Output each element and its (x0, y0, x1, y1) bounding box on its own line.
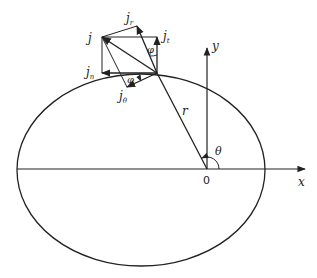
origin-label: 0 (203, 174, 210, 187)
radius-label: r (182, 104, 189, 118)
j-n-label: jn (83, 65, 95, 81)
y-axis-label: y (211, 39, 219, 53)
j-r-label: jr (123, 11, 134, 27)
phi-top-label: φ (147, 44, 154, 55)
x-axis-label: x (298, 175, 305, 189)
j-theta-label: jθ (116, 89, 128, 105)
phi-bottom-label: φ (127, 74, 134, 85)
theta-label: θ (215, 145, 222, 158)
j-t-label: jt (160, 29, 170, 45)
phi-arc-top (150, 55, 157, 56)
ellipse-boundary (17, 74, 265, 266)
radius-line (157, 73, 207, 169)
diagram-canvas: x y 0 r θ jt jn j jr jθ φ φ (0, 0, 317, 278)
j-label: j (85, 31, 92, 45)
j-to-jr-line (102, 26, 137, 37)
